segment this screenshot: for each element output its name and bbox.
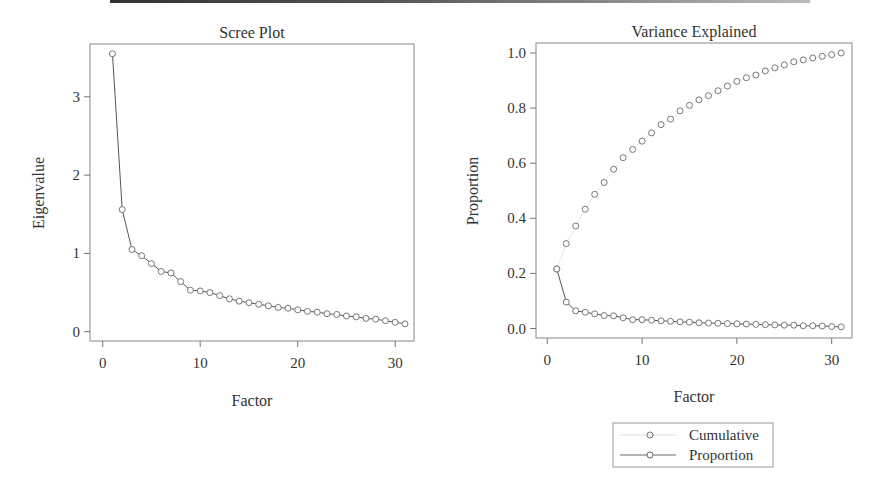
data-point-marker-icon <box>158 268 164 274</box>
data-point-marker-icon <box>620 315 626 321</box>
data-point-marker-icon <box>687 319 693 325</box>
data-point-marker-icon <box>187 287 193 293</box>
data-point-marker-icon <box>715 88 721 94</box>
series-cumulative <box>554 50 844 272</box>
variance-plot-frame <box>536 43 852 338</box>
data-point-marker-icon <box>246 300 252 306</box>
data-point-marker-icon <box>373 316 379 322</box>
data-point-marker-icon <box>734 321 740 327</box>
data-point-marker-icon <box>275 304 281 310</box>
data-point-marker-icon <box>168 270 174 276</box>
y-tick-label: 0.2 <box>507 265 526 281</box>
data-point-marker-icon <box>402 321 408 327</box>
x-tick-label: 20 <box>729 352 744 368</box>
data-point-marker-icon <box>838 324 844 330</box>
data-point-marker-icon <box>696 320 702 326</box>
data-point-marker-icon <box>129 246 135 252</box>
variance-y-label: Proportion <box>464 157 482 225</box>
x-tick-label: 0 <box>99 355 107 371</box>
data-point-marker-icon <box>304 308 310 314</box>
data-point-marker-icon <box>715 320 721 326</box>
data-point-marker-icon <box>687 102 693 108</box>
data-point-marker-icon <box>109 51 115 57</box>
y-tick-label: 0 <box>73 324 81 340</box>
data-point-marker-icon <box>791 322 797 328</box>
data-point-marker-icon <box>762 68 768 74</box>
data-point-marker-icon <box>226 296 232 302</box>
y-tick-label: 1 <box>73 245 81 261</box>
data-point-marker-icon <box>563 299 569 305</box>
data-point-marker-icon <box>743 75 749 81</box>
data-point-marker-icon <box>601 179 607 185</box>
scree-plot-title: Scree Plot <box>219 24 285 41</box>
variance-x-axis: 0102030 <box>544 338 840 368</box>
data-point-marker-icon <box>554 266 560 272</box>
data-point-marker-icon <box>639 138 645 144</box>
data-point-marker-icon <box>285 305 291 311</box>
variance-plot-title: Variance Explained <box>632 23 757 41</box>
scree-x-label: Factor <box>232 392 274 409</box>
data-point-marker-icon <box>630 317 636 323</box>
data-point-marker-icon <box>810 323 816 329</box>
data-point-marker-icon <box>705 320 711 326</box>
data-point-marker-icon <box>563 241 569 247</box>
data-point-marker-icon <box>314 309 320 315</box>
legend: Cumulative Proportion <box>613 423 773 467</box>
x-tick-label: 10 <box>193 355 208 371</box>
data-point-marker-icon <box>724 83 730 89</box>
series-eigenvalue <box>109 51 408 327</box>
data-point-marker-icon <box>724 321 730 327</box>
data-point-marker-icon <box>334 311 340 317</box>
scree-x-axis: 0102030 <box>99 341 403 371</box>
y-tick-label: 0.4 <box>507 210 526 226</box>
data-point-marker-icon <box>573 223 579 229</box>
data-point-marker-icon <box>772 322 778 328</box>
data-point-marker-icon <box>392 319 398 325</box>
series-proportion <box>554 266 844 330</box>
x-tick-label: 30 <box>824 352 839 368</box>
scree-plot-frame <box>90 44 414 341</box>
data-point-marker-icon <box>668 116 674 122</box>
data-point-marker-icon <box>800 57 806 63</box>
data-point-marker-icon <box>256 301 262 307</box>
data-point-marker-icon <box>658 122 664 128</box>
y-tick-label: 1.0 <box>507 45 526 61</box>
variance-y-axis: 0.00.20.40.60.81.0 <box>507 45 536 337</box>
data-point-marker-icon <box>630 146 636 152</box>
variance-x-label: Factor <box>674 388 716 405</box>
x-tick-label: 30 <box>388 355 403 371</box>
data-point-marker-icon <box>658 318 664 324</box>
data-point-marker-icon <box>753 321 759 327</box>
data-point-marker-icon <box>592 191 598 197</box>
data-point-marker-icon <box>781 322 787 328</box>
data-point-marker-icon <box>611 166 617 172</box>
variance-explained-plot: Variance Explained 0.00.20.40.60.81.0 01… <box>464 23 852 405</box>
data-point-marker-icon <box>382 318 388 324</box>
scree-plot: Scree Plot 0123 0102030 Eigenvalue Facto… <box>30 24 414 409</box>
y-tick-label: 3 <box>73 89 81 105</box>
data-point-marker-icon <box>573 308 579 314</box>
data-point-marker-icon <box>639 317 645 323</box>
data-point-marker-icon <box>668 318 674 324</box>
data-point-marker-icon <box>696 97 702 103</box>
data-point-marker-icon <box>734 78 740 84</box>
data-point-marker-icon <box>819 323 825 329</box>
data-point-marker-icon <box>762 322 768 328</box>
x-tick-label: 0 <box>544 352 552 368</box>
data-point-marker-icon <box>324 311 330 317</box>
data-point-marker-icon <box>829 324 835 330</box>
data-point-marker-icon <box>197 288 203 294</box>
data-point-marker-icon <box>838 50 844 56</box>
data-point-marker-icon <box>800 323 806 329</box>
variance-series <box>554 50 844 330</box>
x-tick-label: 20 <box>290 355 305 371</box>
legend-proportion-label: Proportion <box>689 447 754 463</box>
data-point-marker-icon <box>829 52 835 58</box>
data-point-marker-icon <box>582 206 588 212</box>
y-tick-label: 0.0 <box>507 321 526 337</box>
data-point-marker-icon <box>620 155 626 161</box>
data-point-marker-icon <box>772 65 778 71</box>
data-point-marker-icon <box>353 314 359 320</box>
data-point-marker-icon <box>363 315 369 321</box>
data-point-marker-icon <box>582 309 588 315</box>
